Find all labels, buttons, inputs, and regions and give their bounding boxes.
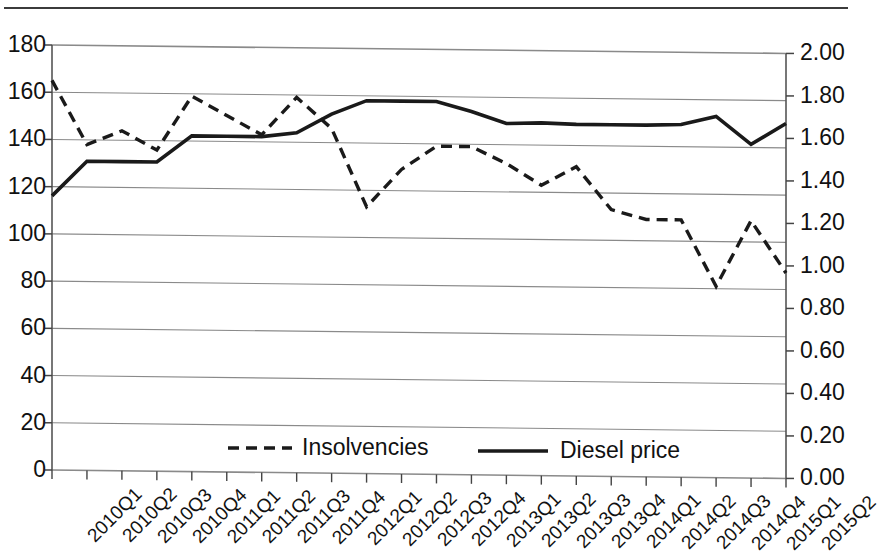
gridline xyxy=(52,139,786,147)
series-line-insolvencies xyxy=(52,80,786,286)
y-axis-right-tick-label: 1.20 xyxy=(800,211,870,234)
y-axis-left-tick-label: 160 xyxy=(0,80,46,103)
gridline xyxy=(52,234,786,242)
gridline xyxy=(52,92,786,100)
gridline xyxy=(52,281,786,289)
gridline xyxy=(52,328,786,336)
gridline xyxy=(52,470,786,478)
y-axis-left-tick-label: 40 xyxy=(0,364,46,387)
gridline xyxy=(52,376,786,384)
y-axis-right-tick-label: 1.60 xyxy=(800,126,870,149)
y-axis-right-tick-label: 0.40 xyxy=(800,381,870,404)
y-axis-right-tick-label: 1.80 xyxy=(800,84,870,107)
y-axis-right-tick-label: 2.00 xyxy=(800,41,870,64)
y-axis-left-tick-label: 60 xyxy=(0,316,46,339)
gridlines xyxy=(52,45,786,478)
x-axis-tick-marks xyxy=(52,470,786,487)
y-axis-right-tick-label: 1.00 xyxy=(800,254,870,277)
gridline xyxy=(52,45,786,53)
y-axis-right-tick-label: 0.60 xyxy=(800,339,870,362)
y-axis-left-tick-label: 20 xyxy=(0,411,46,434)
y-axis-right-tick-label: 0.20 xyxy=(800,424,870,447)
y-axis-left-tick-label: 140 xyxy=(0,127,46,150)
y-axis-right-tick-label: 0.00 xyxy=(800,466,870,489)
legend-item-insolvencies: Insolvencies xyxy=(302,436,429,459)
axes-frame xyxy=(45,45,794,478)
y-axis-left-tick-label: 100 xyxy=(0,222,46,245)
y-axis-left-tick-label: 0 xyxy=(0,458,46,481)
y-axis-right-tick-label: 0.80 xyxy=(800,296,870,319)
y-axis-right-tick-label: 1.40 xyxy=(800,169,870,192)
series-layer xyxy=(52,80,786,286)
series-line-diesel-price xyxy=(52,101,786,196)
gridline xyxy=(52,187,786,195)
y-axis-left-tick-label: 180 xyxy=(0,33,46,56)
legend-item-diesel-price: Diesel price xyxy=(560,439,680,462)
y-axis-left-tick-label: 80 xyxy=(0,269,46,292)
y-axis-left-tick-label: 120 xyxy=(0,175,46,198)
gridline xyxy=(52,423,786,431)
